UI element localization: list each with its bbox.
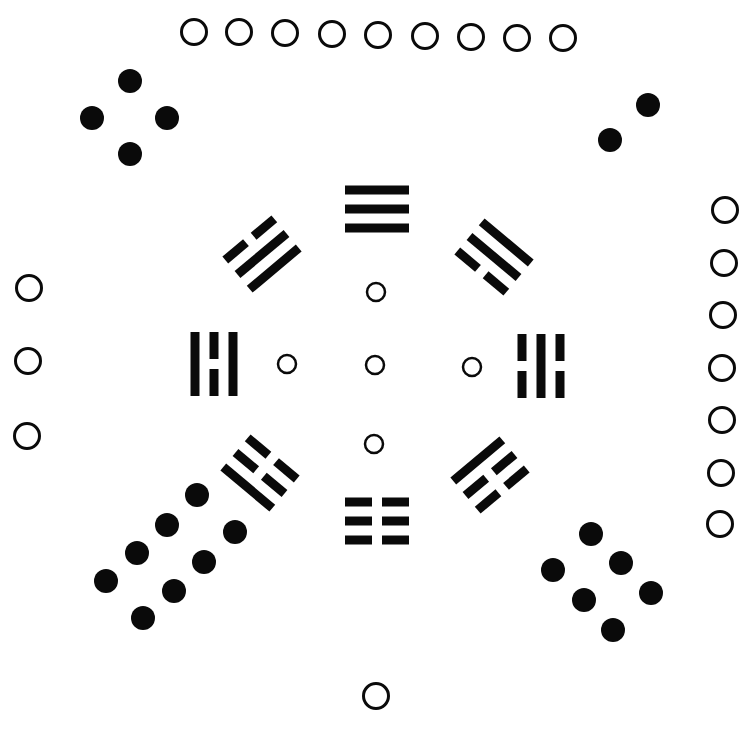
yin-line-icon bbox=[345, 536, 372, 545]
black-dot-icon bbox=[609, 551, 633, 575]
left-group-three-white bbox=[15, 276, 42, 449]
yang-line-icon bbox=[191, 332, 200, 396]
yang-line-icon bbox=[220, 464, 275, 512]
center-ring-icon bbox=[365, 435, 383, 453]
yin-line-icon bbox=[556, 334, 565, 361]
yin-line-icon bbox=[210, 369, 219, 396]
black-dot-icon bbox=[185, 483, 209, 507]
black-dot-icon bbox=[192, 550, 216, 574]
white-dot-icon bbox=[15, 424, 40, 449]
black-dot-icon bbox=[80, 106, 104, 130]
yin-line-icon bbox=[345, 517, 372, 526]
trigram-top-right-dui bbox=[454, 218, 533, 295]
top-left-group-four-black bbox=[80, 69, 179, 166]
black-dot-icon bbox=[223, 520, 247, 544]
yang-line-icon bbox=[467, 233, 522, 281]
black-dot-icon bbox=[125, 541, 149, 565]
trigram-bottom-right-zhen bbox=[450, 436, 529, 513]
yang-line-icon bbox=[345, 186, 409, 195]
white-dot-icon bbox=[709, 461, 734, 486]
yin-line-icon bbox=[463, 475, 489, 499]
center-ring-icon bbox=[278, 355, 296, 373]
white-dot-icon bbox=[708, 512, 733, 537]
luoshu-bagua-diagram bbox=[0, 0, 747, 746]
trigram-right-kan bbox=[518, 334, 565, 398]
black-dot-icon bbox=[541, 558, 565, 582]
white-dot-icon bbox=[320, 22, 345, 47]
white-dot-icon bbox=[366, 23, 391, 48]
center-five-rings bbox=[278, 283, 481, 453]
white-dot-icon bbox=[713, 198, 738, 223]
right-group-seven-white bbox=[708, 198, 738, 537]
bottom-right-group-six-black bbox=[541, 522, 663, 642]
black-dot-icon bbox=[579, 522, 603, 546]
black-dot-icon bbox=[601, 618, 625, 642]
white-dot-icon bbox=[712, 251, 737, 276]
black-dot-icon bbox=[118, 69, 142, 93]
top-right-group-two-black bbox=[598, 93, 660, 152]
white-dot-icon bbox=[551, 26, 576, 51]
yang-line-icon bbox=[229, 332, 238, 396]
yin-line-icon bbox=[382, 536, 409, 545]
white-dot-icon bbox=[710, 408, 735, 433]
black-dot-icon bbox=[118, 142, 142, 166]
bottom-left-group-eight-black bbox=[94, 483, 247, 630]
yin-line-icon bbox=[251, 215, 277, 239]
yang-line-icon bbox=[235, 230, 290, 278]
black-dot-icon bbox=[639, 581, 663, 605]
yang-line-icon bbox=[247, 245, 302, 293]
yin-line-icon bbox=[454, 248, 480, 272]
yin-line-icon bbox=[483, 271, 509, 295]
trigram-left-li bbox=[191, 332, 238, 396]
white-dot-icon bbox=[710, 356, 735, 381]
black-dot-icon bbox=[598, 128, 622, 152]
white-dot-icon bbox=[17, 276, 42, 301]
yang-line-icon bbox=[479, 218, 534, 266]
white-dot-icon bbox=[413, 24, 438, 49]
black-dot-icon bbox=[131, 606, 155, 630]
yin-line-icon bbox=[261, 473, 287, 497]
yin-line-icon bbox=[245, 434, 271, 458]
white-dot-icon bbox=[459, 25, 484, 50]
yin-line-icon bbox=[556, 371, 565, 398]
black-dot-icon bbox=[155, 513, 179, 537]
black-dot-icon bbox=[162, 579, 186, 603]
trigram-bottom-kun bbox=[345, 498, 409, 545]
eight-trigrams bbox=[191, 186, 565, 545]
white-dot-icon bbox=[505, 26, 530, 51]
yin-line-icon bbox=[273, 458, 299, 482]
yang-line-icon bbox=[450, 436, 505, 484]
yin-line-icon bbox=[491, 451, 517, 475]
black-dot-icon bbox=[572, 588, 596, 612]
yin-line-icon bbox=[345, 498, 372, 507]
yin-line-icon bbox=[475, 489, 501, 513]
white-dot-icon bbox=[364, 684, 389, 709]
yin-line-icon bbox=[382, 517, 409, 526]
black-dot-icon bbox=[636, 93, 660, 117]
center-ring-icon bbox=[367, 283, 385, 301]
yin-line-icon bbox=[503, 466, 529, 490]
center-ring-icon bbox=[366, 356, 384, 374]
yin-line-icon bbox=[518, 371, 527, 398]
yang-line-icon bbox=[345, 205, 409, 214]
top-group-nine-white bbox=[182, 20, 576, 51]
trigram-top-qian bbox=[345, 186, 409, 233]
yin-line-icon bbox=[233, 449, 259, 473]
yin-line-icon bbox=[222, 239, 248, 263]
yang-line-icon bbox=[345, 224, 409, 233]
yin-line-icon bbox=[210, 332, 219, 359]
white-dot-icon bbox=[227, 20, 252, 45]
bottom-group-one-white bbox=[364, 684, 389, 709]
yin-line-icon bbox=[382, 498, 409, 507]
white-dot-icon bbox=[182, 20, 207, 45]
trigram-bottom-left-gen bbox=[220, 434, 299, 511]
number-dot-groups bbox=[15, 20, 738, 709]
yang-line-icon bbox=[537, 334, 546, 398]
center-ring-icon bbox=[463, 358, 481, 376]
black-dot-icon bbox=[94, 569, 118, 593]
yin-line-icon bbox=[518, 334, 527, 361]
white-dot-icon bbox=[273, 21, 298, 46]
trigram-top-left-xun bbox=[222, 215, 301, 292]
black-dot-icon bbox=[155, 106, 179, 130]
white-dot-icon bbox=[16, 349, 41, 374]
